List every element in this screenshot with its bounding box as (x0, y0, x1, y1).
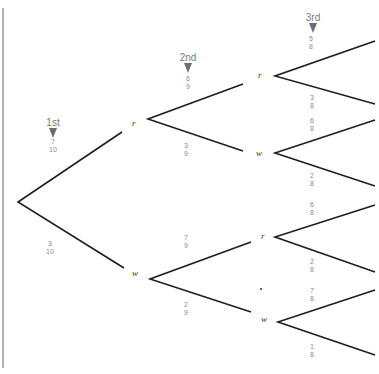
prob-l3-rwr: 6 8 (302, 117, 322, 133)
prob-l3-rrr: 5 8 (301, 35, 321, 51)
prob-l2-rr: 6 9 (178, 75, 198, 91)
branch-level3-wr (275, 205, 375, 272)
prob-l3-wrr: 6 8 (302, 201, 322, 217)
arrow-down-icon (184, 63, 192, 73)
prob-l3-wrw: 2 8 (302, 258, 322, 274)
branch-level2-r (148, 84, 243, 151)
stage-label-1st: 1st (38, 117, 68, 128)
prob-l3-rrw: 3 8 (302, 94, 322, 110)
node-l2-r: r (258, 70, 262, 80)
prob-l2-rw: 3 9 (176, 142, 196, 158)
branch-level2-w (150, 242, 251, 312)
stage-label-2nd: 2nd (173, 52, 203, 63)
branch-level1 (18, 132, 124, 268)
branch-level3-rw (275, 120, 375, 186)
prob-l3-wwr: 7 8 (302, 287, 322, 303)
node-l1-r: r (132, 118, 136, 128)
node-l2-w: w (256, 148, 262, 158)
node-l2-r: r (261, 231, 265, 241)
prob-l2-wr: 7 9 (176, 234, 196, 250)
prob-l3-www: 1 8 (302, 343, 322, 359)
prob-l2-ww: 2 9 (176, 301, 196, 317)
prob-l3-rww: 2 8 (302, 172, 322, 188)
branch-level3-rr (275, 41, 375, 104)
arrow-down-icon (309, 23, 317, 33)
node-l1-w: w (132, 268, 138, 278)
node-l2-w: w (261, 314, 267, 324)
branch-level3-ww (278, 290, 375, 355)
prob-l1-r: 7 10 (43, 138, 63, 154)
arrow-down-icon (49, 128, 57, 138)
stray-dot (260, 288, 262, 290)
prob-l1-w: 3 10 (40, 240, 60, 256)
stage-label-3rd: 3rd (298, 12, 328, 23)
